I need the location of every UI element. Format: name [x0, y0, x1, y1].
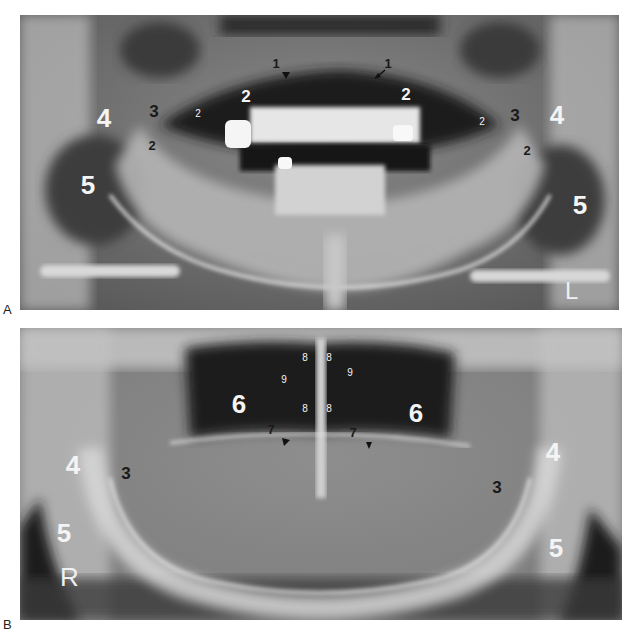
label-3-left: 3: [121, 465, 130, 482]
panel-letter-a: A: [3, 302, 12, 317]
label-9-left: 9: [281, 375, 287, 385]
label-2-small-left: 2: [195, 109, 201, 119]
label-8-upper-left: 8: [302, 353, 308, 363]
label-7-right: 7: [349, 426, 356, 439]
label-7-left: 7: [267, 423, 274, 436]
panel-letter-b: B: [3, 617, 12, 632]
label-5-left: 5: [81, 172, 95, 198]
label-8-lower-left: 8: [302, 404, 308, 414]
label-3-right: 3: [492, 479, 501, 496]
label-4-left: 4: [66, 452, 80, 478]
label-6-right: 6: [409, 400, 423, 426]
label-4-left: 4: [97, 105, 111, 131]
label-5-left: 5: [57, 520, 71, 546]
label-9-right: 9: [347, 368, 353, 378]
radiograph-b-image: [20, 328, 622, 620]
side-marker-right: R: [60, 562, 79, 593]
label-6-left: 6: [232, 391, 246, 417]
label-2-upper-left: 2: [241, 88, 250, 105]
label-3-left: 3: [149, 103, 158, 120]
label-2-upper-right: 2: [401, 86, 410, 103]
label-2-small-right: 2: [479, 117, 485, 127]
panoramic-radiograph-a: 1 1 2 2 2 2 2 2 3 3 4 4 5 5 L: [20, 15, 619, 310]
radiograph-a-image: [20, 15, 619, 310]
label-1-right: 1: [384, 57, 391, 70]
label-4-right: 4: [550, 102, 564, 128]
label-3-right: 3: [510, 107, 519, 124]
label-2-lower-right: 2: [523, 144, 530, 157]
label-8-upper-right: 8: [326, 353, 332, 363]
label-4-right: 4: [546, 439, 560, 465]
label-5-right: 5: [549, 535, 563, 561]
panoramic-radiograph-b: 4 4 3 3 5 5 6 6 7 7 8 8 8 8 9 9 R: [20, 328, 622, 620]
side-marker-left: L: [565, 277, 578, 305]
label-1-left: 1: [272, 57, 279, 70]
label-2-lower-left: 2: [148, 139, 155, 152]
label-5-right: 5: [573, 192, 587, 218]
label-8-lower-right: 8: [326, 404, 332, 414]
